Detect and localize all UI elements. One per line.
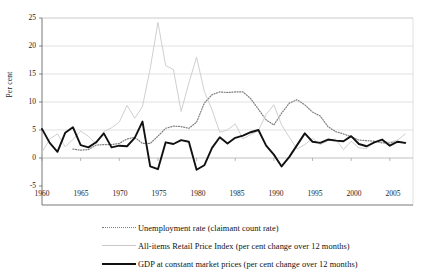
x-tick-label: 1970 [103, 190, 137, 198]
y-axis-title: Per cent [5, 84, 14, 98]
chart-root: Per cent 25 20 15 10 5 0 -5 1960 1965 19… [0, 0, 426, 277]
x-tick-label: 1960 [25, 190, 59, 198]
legend-swatch-thick-line-icon [100, 259, 138, 269]
y-tick-label: 15 [14, 70, 36, 78]
x-tick-label: 1985 [220, 190, 254, 198]
x-tick-label: 2005 [376, 190, 410, 198]
y-tick-label: -5 [14, 182, 36, 190]
chart-legend: Unemployment rate (claimant count rate) … [100, 219, 426, 277]
x-tick-label: 1975 [142, 190, 176, 198]
legend-swatch-thin-line-icon [100, 241, 138, 251]
chart-plot-area: Per cent 25 20 15 10 5 0 -5 1960 1965 19… [0, 0, 426, 215]
legend-item-unemployment: Unemployment rate (claimant count rate) [100, 219, 426, 237]
y-tick-label: 0 [14, 154, 36, 162]
x-tick-label: 1980 [181, 190, 215, 198]
legend-swatch-dotted-icon [100, 223, 138, 233]
x-tick-label: 2000 [337, 190, 371, 198]
legend-item-rpi: All-items Retail Price Index (per cent c… [100, 237, 426, 255]
y-tick-label: 10 [14, 98, 36, 106]
y-tick-label: 25 [14, 14, 36, 22]
y-tick-label: 5 [14, 126, 36, 134]
legend-label: All-items Retail Price Index (per cent c… [138, 242, 350, 251]
x-tick-label: 1965 [64, 190, 98, 198]
x-tick-label: 1990 [259, 190, 293, 198]
chart-canvas [0, 0, 426, 215]
legend-label: Unemployment rate (claimant count rate) [138, 224, 279, 233]
y-tick-label: 20 [14, 42, 36, 50]
x-tick-label: 1995 [298, 190, 332, 198]
legend-item-gdp: GDP at constant market prices (per cent … [100, 255, 426, 273]
legend-label: GDP at constant market prices (per cent … [138, 260, 358, 269]
